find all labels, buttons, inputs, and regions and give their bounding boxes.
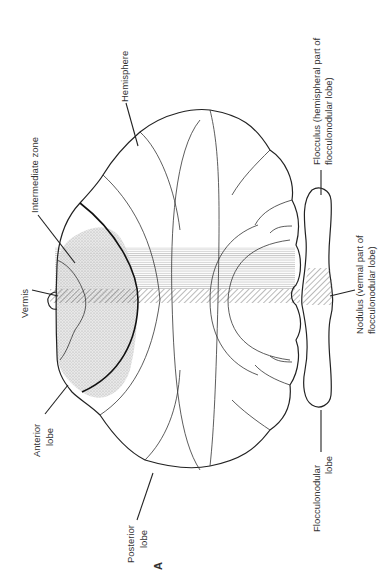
nodulus-region: [302, 268, 333, 305]
anterior-lobe-leader: [45, 385, 68, 414]
fissure-upper-6: [270, 226, 292, 233]
label-flocculus-line1: Flocculus (hemispheral part of: [311, 37, 322, 165]
label-anterior-lobe-line1: Anterior: [31, 424, 42, 457]
label-posterior-lobe-line2: lobe: [138, 530, 149, 548]
vermis-hatch-overlay: [55, 289, 140, 303]
label-flocculus-line2: flocculonodular lobe): [323, 77, 334, 165]
fissure-lower-3: [232, 400, 270, 430]
anterior-lobe-region: [56, 227, 137, 398]
fissure-lower-2: [145, 370, 180, 460]
label-posterior-lobe-line1: Posterior: [125, 525, 136, 563]
label-nodulus-line2: flocculonodular lobe): [366, 246, 377, 334]
fissure-upper-4: [232, 150, 270, 195]
label-flocculonodular-line2: lobe: [323, 456, 334, 474]
cerebellum-diagram: Hemisphere Intermediate zone Vermis Ante…: [0, 0, 388, 579]
label-vermis: Vermis: [19, 289, 30, 318]
label-intermediate-zone: Intermediate zone: [29, 137, 40, 213]
fissure-upper-5: [255, 200, 292, 225]
label-hemisphere: Hemisphere: [119, 51, 130, 102]
label-nodulus-line1: Nodulus (vermal part of: [354, 235, 365, 334]
posterior-lobe-leader: [137, 473, 153, 520]
nodulus-leader: [330, 290, 355, 296]
label-flocculonodular-line1: Flocculonodular: [311, 465, 322, 532]
label-anterior-lobe-line2: lobe: [44, 428, 55, 446]
fissure-lower-4: [255, 365, 290, 385]
panel-label: A: [152, 562, 164, 570]
